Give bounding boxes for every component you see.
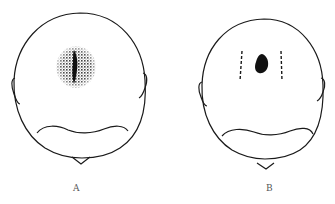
head-outline — [202, 19, 323, 159]
panel-label-b: B — [266, 183, 273, 193]
figure-canvas — [0, 0, 335, 204]
right-ear — [317, 78, 325, 101]
dashed-margin-left — [240, 51, 242, 81]
head-diagram-b — [199, 19, 325, 169]
left-ear — [199, 82, 207, 106]
lesion-b — [255, 54, 268, 73]
dashed-margin-right — [281, 51, 282, 81]
chin-notch — [257, 163, 274, 169]
left-ear — [12, 78, 20, 104]
lesion-a — [55, 45, 97, 89]
neck-band — [222, 128, 313, 136]
neck-band — [37, 126, 128, 133]
panel-label-a: A — [73, 183, 80, 193]
